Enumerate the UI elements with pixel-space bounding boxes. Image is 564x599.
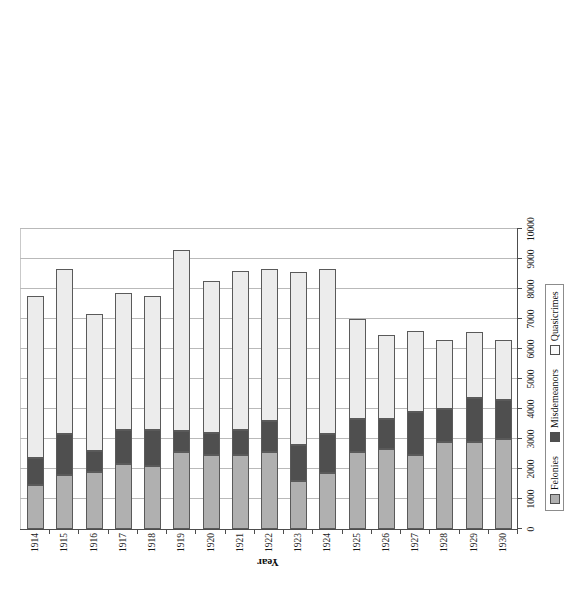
bar-segment-quasicrimes[interactable] <box>436 340 453 409</box>
bar-segment-misdemeanors[interactable] <box>115 430 132 465</box>
y-axis-tick <box>78 529 79 534</box>
bar-row[interactable] <box>56 229 73 529</box>
bar-segment-felonies[interactable] <box>232 456 249 530</box>
bar-segment-misdemeanors[interactable] <box>466 399 483 443</box>
bar-segment-quasicrimes[interactable] <box>203 282 220 434</box>
bar-row[interactable] <box>290 229 307 529</box>
y-axis-tick-label: 1919 <box>176 533 186 575</box>
bar-segment-felonies[interactable] <box>319 474 336 530</box>
bar-segment-felonies[interactable] <box>466 442 483 529</box>
y-axis-tick-label: 1930 <box>498 533 508 575</box>
y-axis-tick-label: 1924 <box>322 533 332 575</box>
x-axis-tick <box>517 318 522 319</box>
bar-segment-felonies[interactable] <box>144 466 161 529</box>
x-axis-tick <box>517 408 522 409</box>
bar-segment-felonies[interactable] <box>261 453 278 530</box>
legend-swatch-icon <box>550 345 560 355</box>
bar-row[interactable] <box>349 229 366 529</box>
bar-row[interactable] <box>115 229 132 529</box>
bar-segment-quasicrimes[interactable] <box>115 294 132 431</box>
y-axis-tick <box>312 529 313 534</box>
bar-segment-quasicrimes[interactable] <box>378 336 395 420</box>
bar-segment-misdemeanors[interactable] <box>203 433 220 456</box>
bar-segment-misdemeanors[interactable] <box>436 409 453 442</box>
bar-segment-quasicrimes[interactable] <box>27 297 44 459</box>
bar-segment-misdemeanors[interactable] <box>261 421 278 453</box>
bar-row[interactable] <box>144 229 161 529</box>
bar-segment-felonies[interactable] <box>203 456 220 530</box>
bar-row[interactable] <box>173 229 190 529</box>
y-axis-tick-label: 1929 <box>469 533 479 575</box>
y-axis-tick <box>225 529 226 534</box>
y-axis-tick-label: 1914 <box>30 533 40 575</box>
bar-segment-misdemeanors[interactable] <box>290 445 307 481</box>
bar-segment-misdemeanors[interactable] <box>319 435 336 474</box>
bar-segment-quasicrimes[interactable] <box>290 273 307 446</box>
legend-label: Misdemeanors <box>549 369 560 428</box>
bar-row[interactable] <box>232 229 249 529</box>
bar-segment-quasicrimes[interactable] <box>144 297 161 431</box>
bar-segment-quasicrimes[interactable] <box>173 250 190 432</box>
bar-segment-quasicrimes[interactable] <box>86 315 103 452</box>
y-axis-tick-label: 1918 <box>147 533 157 575</box>
y-axis-tick <box>342 529 343 534</box>
y-axis-tick <box>283 529 284 534</box>
y-axis-tick <box>517 529 518 534</box>
legend-item[interactable]: Felonies <box>549 456 560 504</box>
bar-segment-quasicrimes[interactable] <box>407 331 424 412</box>
bar-segment-felonies[interactable] <box>27 486 44 530</box>
bar-row[interactable] <box>203 229 220 529</box>
bar-row[interactable] <box>378 229 395 529</box>
bar-segment-felonies[interactable] <box>290 481 307 529</box>
bar-segment-quasicrimes[interactable] <box>349 319 366 420</box>
bar-row[interactable] <box>407 229 424 529</box>
legend-item[interactable]: Quasicrimes <box>549 291 560 355</box>
x-axis-tick <box>517 288 522 289</box>
bar-segment-misdemeanors[interactable] <box>86 451 103 472</box>
y-axis-tick-label: 1927 <box>410 533 420 575</box>
bar-segment-quasicrimes[interactable] <box>56 270 73 435</box>
x-axis-tick <box>517 438 522 439</box>
bar-segment-felonies[interactable] <box>173 453 190 530</box>
legend-item[interactable]: Misdemeanors <box>549 369 560 442</box>
bar-segment-felonies[interactable] <box>115 465 132 530</box>
bar-row[interactable] <box>319 229 336 529</box>
bar-segment-misdemeanors[interactable] <box>173 432 190 453</box>
x-axis-tick <box>517 258 522 259</box>
bar-segment-felonies[interactable] <box>86 472 103 529</box>
bar-segment-felonies[interactable] <box>349 453 366 530</box>
bar-row[interactable] <box>27 229 44 529</box>
bar-segment-misdemeanors[interactable] <box>495 400 512 439</box>
bar-segment-quasicrimes[interactable] <box>261 270 278 422</box>
y-axis-title: Year <box>257 557 279 569</box>
bar-row[interactable] <box>261 229 278 529</box>
bar-row[interactable] <box>436 229 453 529</box>
bar-segment-misdemeanors[interactable] <box>144 430 161 466</box>
bar-segment-quasicrimes[interactable] <box>495 340 512 400</box>
bar-segment-misdemeanors[interactable] <box>349 420 366 453</box>
bar-segment-quasicrimes[interactable] <box>319 270 336 435</box>
bar-segment-quasicrimes[interactable] <box>466 333 483 399</box>
bar-segment-misdemeanors[interactable] <box>378 420 395 450</box>
bar-row[interactable] <box>495 229 512 529</box>
bar-segment-misdemeanors[interactable] <box>232 430 249 456</box>
bar-segment-misdemeanors[interactable] <box>27 459 44 486</box>
bar-segment-felonies[interactable] <box>436 442 453 529</box>
y-axis-tick <box>400 529 401 534</box>
bar-row[interactable] <box>466 229 483 529</box>
bar-segment-felonies[interactable] <box>378 450 395 530</box>
bar-segment-quasicrimes[interactable] <box>232 271 249 430</box>
bar-segment-felonies[interactable] <box>495 439 512 529</box>
bar-segment-felonies[interactable] <box>407 456 424 530</box>
y-axis-tick-label: 1928 <box>439 533 449 575</box>
bar-segment-misdemeanors[interactable] <box>56 435 73 476</box>
bar-segment-misdemeanors[interactable] <box>407 412 424 456</box>
bar-segment-felonies[interactable] <box>56 475 73 529</box>
bar-row[interactable] <box>86 229 103 529</box>
y-axis-tick <box>108 529 109 534</box>
y-axis-tick-label: 1917 <box>118 533 128 575</box>
legend: FeloniesMisdemeanorsQuasicrimes <box>545 284 564 511</box>
bars-container <box>20 229 517 529</box>
